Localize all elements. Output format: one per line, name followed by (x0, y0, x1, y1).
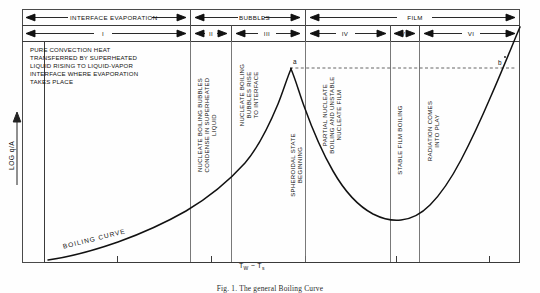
spheroidal-state-label: SPHEROIDAL STATE BEGINNING (290, 115, 304, 215)
region-numeral-v: V (399, 30, 407, 37)
band-label-bubbles: BUBBLES (239, 14, 263, 21)
region-numeral-i: I (96, 30, 110, 37)
region-numeral-vi: VI (464, 30, 478, 37)
region-numeral-ii: II (206, 30, 216, 37)
region-iv-description: PARTIAL NUCLEATE BOILING AND UNSTABLE NU… (322, 70, 344, 160)
region-i-description: PURE CONVECTION HEAT TRANSFERRED BY SUPE… (30, 46, 182, 86)
region-iii-description: NUCLEATE BOILING BUBBLES RISE TO INTERFA… (239, 40, 261, 150)
plot-canvas (0, 0, 540, 293)
x-axis-label: TW − Ts (239, 262, 265, 271)
band-label-interface-evaporation: INTERFACE EVAPORATION (70, 14, 150, 21)
point-b-label: b (498, 59, 502, 66)
region-vi-description: RADIATION COMES INTO PLAY (427, 90, 441, 172)
region-v-description: STABLE FILM BOILING (397, 90, 404, 190)
band-label-film: FILM (399, 14, 431, 21)
x-axis-label-minus: − T (249, 262, 262, 269)
region-numeral-iii: III (260, 30, 274, 37)
point-b-marker (504, 56, 506, 58)
region-numeral-iv: IV (338, 30, 352, 37)
x-axis-label-sub-s: s (262, 265, 265, 271)
point-a-label: a (293, 58, 297, 65)
figure-caption: Fig. 1. The general Boiling Curve (0, 284, 540, 293)
region-ii-description: NUCLEATE BOILING BUBBLES CONDENSE IN SUP… (197, 50, 219, 200)
point-a-marker (290, 68, 292, 70)
boiling-curve-figure: INTERFACE EVAPORATION BUBBLES FILM I II … (0, 0, 540, 293)
y-axis-label: LOG q/A (8, 141, 15, 170)
